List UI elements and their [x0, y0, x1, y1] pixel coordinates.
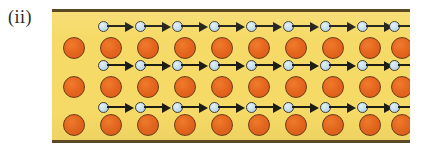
right-arrow-icon	[162, 141, 171, 143]
spin-arrow-above	[209, 60, 245, 72]
right-arrow-icon	[236, 22, 245, 32]
orange-ion-circle	[322, 37, 344, 59]
orange-ion-circle	[174, 114, 196, 136]
right-arrow-icon	[199, 103, 208, 113]
spin-arrow-above	[135, 21, 171, 33]
right-arrow-icon	[310, 61, 319, 71]
right-arrow-icon	[199, 141, 208, 143]
spin-arrow-above	[357, 21, 393, 33]
orange-ion-circle	[285, 76, 307, 98]
orange-ion-circle	[211, 114, 233, 136]
arrow-shaft	[398, 25, 410, 27]
spin-arrow-below	[320, 140, 356, 143]
spin-arrow-above	[246, 21, 282, 33]
spin-arrow-above	[98, 60, 134, 72]
orange-ion-circle	[100, 76, 122, 98]
right-arrow-icon	[310, 22, 319, 32]
orange-ion-circle	[174, 37, 196, 59]
right-arrow-icon	[347, 61, 356, 71]
spin-arrow-above	[98, 21, 134, 33]
orange-ion-circle	[174, 76, 196, 98]
spin-arrow-below	[246, 102, 282, 114]
right-arrow-icon	[162, 103, 171, 113]
right-arrow-icon	[199, 22, 208, 32]
right-arrow-icon	[347, 103, 356, 113]
right-arrow-icon	[273, 103, 282, 113]
light-blue-circle-icon	[357, 140, 368, 143]
spin-arrow-below	[172, 102, 208, 114]
orange-ion-circle	[63, 37, 85, 59]
right-arrow-icon	[236, 141, 245, 143]
orange-ion-circle	[322, 114, 344, 136]
arrow-shaft	[398, 64, 410, 66]
light-blue-circle-icon	[389, 140, 400, 143]
spin-arrow-below	[209, 140, 245, 143]
spin-arrow-above	[246, 60, 282, 72]
spin-arrow-below	[98, 140, 134, 143]
light-blue-circle-icon	[98, 140, 109, 143]
orange-ion-circle	[211, 76, 233, 98]
spin-arrow-above	[172, 21, 208, 33]
right-arrow-icon	[125, 141, 134, 143]
orange-ion-circle	[391, 76, 410, 98]
orange-ion-circle	[248, 37, 270, 59]
right-arrow-icon	[347, 141, 356, 143]
orange-ion-circle	[391, 37, 410, 59]
spin-arrow-above	[283, 60, 319, 72]
orange-ion-circle	[137, 114, 159, 136]
right-arrow-icon	[273, 22, 282, 32]
figure-panel-ii: (ii)	[0, 0, 428, 150]
light-blue-circle-icon	[320, 140, 331, 143]
orange-ion-circle	[359, 37, 381, 59]
spin-arrow-below	[135, 140, 171, 143]
right-arrow-icon	[310, 141, 319, 143]
right-arrow-icon	[347, 22, 356, 32]
spin-arrow-below	[357, 102, 393, 114]
orange-ion-circle	[137, 37, 159, 59]
spin-arrow-above	[389, 21, 410, 33]
orange-ion-circle	[359, 76, 381, 98]
spin-arrow-above	[283, 21, 319, 33]
right-arrow-icon	[125, 103, 134, 113]
right-arrow-icon	[199, 61, 208, 71]
spin-arrow-above	[389, 60, 410, 72]
right-arrow-icon	[125, 61, 134, 71]
orange-ion-circle	[211, 37, 233, 59]
spin-arrow-below	[389, 140, 410, 143]
right-arrow-icon	[310, 103, 319, 113]
right-arrow-icon	[384, 141, 393, 143]
orange-ion-circle	[322, 76, 344, 98]
spin-arrow-below	[283, 102, 319, 114]
right-arrow-icon	[236, 61, 245, 71]
spin-arrow-below	[389, 102, 410, 114]
lattice-slab	[52, 9, 410, 143]
spin-arrow-above	[135, 60, 171, 72]
orange-ion-circle	[137, 76, 159, 98]
orange-ion-circle	[391, 114, 410, 136]
arrow-shaft	[398, 106, 410, 108]
spin-arrow-above	[357, 60, 393, 72]
light-blue-circle-icon	[135, 140, 146, 143]
spin-arrow-below	[172, 140, 208, 143]
spin-arrow-below	[135, 102, 171, 114]
right-arrow-icon	[273, 141, 282, 143]
spin-arrow-below	[320, 102, 356, 114]
orange-ion-circle	[285, 114, 307, 136]
right-arrow-icon	[162, 22, 171, 32]
spin-arrow-below	[98, 102, 134, 114]
panel-label: (ii)	[8, 8, 32, 26]
spin-arrow-above	[172, 60, 208, 72]
spin-arrow-below	[357, 140, 393, 143]
orange-ion-circle	[100, 37, 122, 59]
light-blue-circle-icon	[209, 140, 220, 143]
right-arrow-icon	[236, 103, 245, 113]
orange-ion-circle	[248, 114, 270, 136]
orange-ion-circle	[100, 114, 122, 136]
right-arrow-icon	[162, 61, 171, 71]
light-blue-circle-icon	[283, 140, 294, 143]
light-blue-circle-icon	[172, 140, 183, 143]
orange-ion-circle	[63, 114, 85, 136]
right-arrow-icon	[125, 22, 134, 32]
spin-arrow-above	[209, 21, 245, 33]
orange-ion-circle	[248, 76, 270, 98]
